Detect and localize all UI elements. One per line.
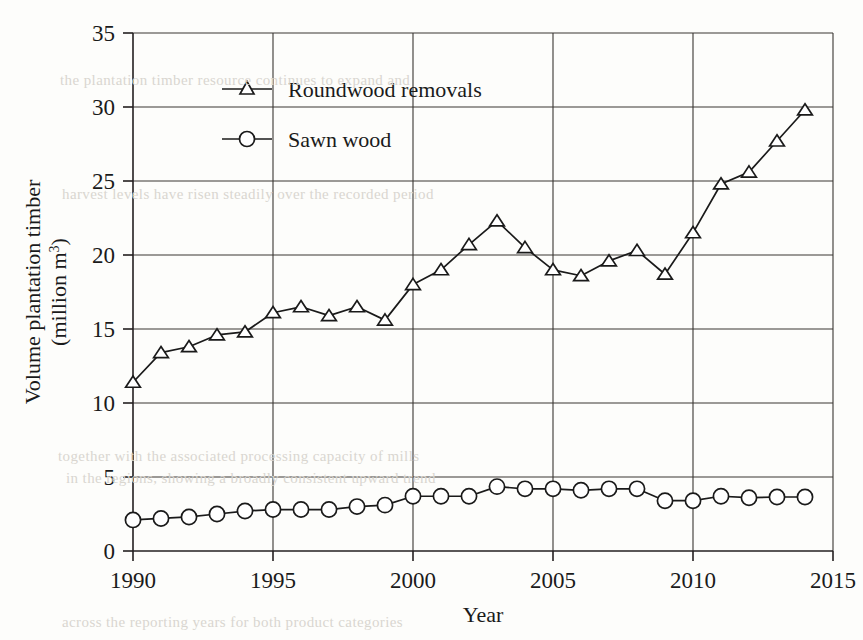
- data-point: [181, 509, 196, 524]
- data-point: [406, 278, 421, 289]
- x-tick-label: 2010: [670, 568, 716, 593]
- y-tick-label: 30: [92, 95, 115, 120]
- data-point: [573, 483, 588, 498]
- data-point: [237, 503, 252, 518]
- data-point: [153, 511, 168, 526]
- data-point: [322, 309, 337, 320]
- legend-item-sawn-wood[interactable]: Sawn wood: [222, 127, 391, 152]
- x-tick-label: 2015: [810, 568, 856, 593]
- y-tick-label: 15: [92, 317, 115, 342]
- x-axis-ticks: [133, 551, 833, 561]
- data-point: [350, 301, 365, 312]
- x-tick-label: 1995: [250, 568, 296, 593]
- x-tick-label: 2000: [390, 568, 436, 593]
- data-point: [405, 489, 420, 504]
- circle-icon: [240, 132, 255, 147]
- legend-label: Sawn wood: [288, 127, 391, 152]
- data-point: [490, 215, 505, 226]
- x-tick-label: 2005: [530, 568, 576, 593]
- x-tick-labels: 1990 1995 2000 2005 2010 2015: [110, 568, 856, 593]
- data-point: [265, 502, 280, 517]
- ghost-text-line: in the regions, showing a broadly consis…: [66, 470, 436, 487]
- data-point: [377, 498, 392, 513]
- data-point: [125, 512, 140, 527]
- ghost-text-line: across the reporting years for both prod…: [62, 614, 403, 631]
- data-point: [629, 481, 644, 496]
- ghost-text-line: together with the associated processing …: [58, 448, 419, 465]
- data-point: [685, 493, 700, 508]
- data-point: [630, 244, 645, 255]
- x-axis-title: Year: [463, 602, 504, 627]
- data-point: [349, 499, 364, 514]
- y-tick-label: 35: [92, 21, 115, 46]
- y-tick-label: 0: [104, 539, 116, 564]
- data-point: [293, 502, 308, 517]
- data-point: [517, 481, 532, 496]
- y-tick-label: 20: [92, 243, 115, 268]
- data-point: [714, 178, 729, 189]
- data-point: [741, 490, 756, 505]
- data-point: [713, 489, 728, 504]
- figure-container: the plantation timber resource continues…: [0, 0, 863, 640]
- data-point: [461, 489, 476, 504]
- chart-svg: 35 30 25 20 15 10 5 0 1990 1995 2000 200…: [0, 0, 863, 640]
- data-point: [686, 227, 701, 238]
- ghost-text-line: harvest levels have risen steadily over …: [62, 186, 434, 203]
- y-axis-title-line2: (million m3): [46, 238, 71, 346]
- series-roundwood-removals: [126, 104, 813, 388]
- y-axis-title-line1: Volume plantation timber: [20, 179, 45, 404]
- data-point: [489, 479, 504, 494]
- data-point: [378, 314, 393, 325]
- data-point: [769, 489, 784, 504]
- data-point: [798, 104, 813, 115]
- data-point: [602, 255, 617, 266]
- data-point: [321, 502, 336, 517]
- data-point: [657, 493, 672, 508]
- x-tick-label: 1990: [110, 568, 156, 593]
- ghost-text-line: the plantation timber resource continues…: [60, 72, 410, 89]
- data-point: [294, 301, 309, 312]
- data-point: [433, 489, 448, 504]
- data-point: [545, 481, 560, 496]
- grid-horizontal: [133, 33, 833, 477]
- data-point: [209, 506, 224, 521]
- data-point: [797, 489, 812, 504]
- data-point: [182, 341, 197, 352]
- data-point: [601, 481, 616, 496]
- y-axis-title: Volume plantation timber (million m3): [20, 179, 71, 404]
- y-tick-label: 10: [92, 391, 115, 416]
